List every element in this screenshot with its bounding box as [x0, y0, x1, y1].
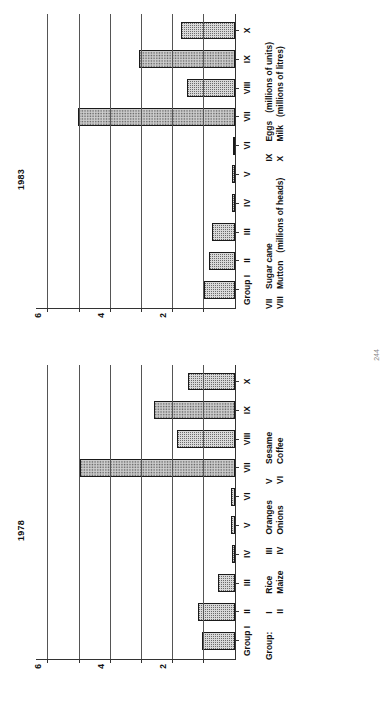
x-axis-label: X [242, 16, 252, 45]
gridline [141, 365, 142, 659]
x-axis-tick [235, 583, 239, 584]
legend-numeral: II [275, 598, 285, 614]
bar [187, 79, 235, 97]
bar [188, 373, 235, 391]
legend-label: Sesame [264, 432, 274, 464]
bar-slot [36, 275, 235, 304]
gridline [79, 365, 80, 659]
x-axis-tick [235, 289, 239, 290]
y-axis-tick [172, 659, 173, 663]
legend-label: Milk [275, 125, 285, 142]
page-number: 244 [373, 349, 380, 361]
legend-item: VIII Mutton (millions of heads) [275, 178, 285, 309]
y-axis-tick [141, 308, 142, 312]
x-axis-tick [235, 554, 239, 555]
bar [202, 632, 235, 650]
legend-unit: (millions of units) [264, 42, 274, 113]
x-axis-label: IX [242, 396, 252, 425]
legend-label: Rice [264, 576, 274, 594]
x-axis-label: Group I [242, 626, 252, 656]
legend-item: IV Onions [275, 500, 285, 555]
y-axis-tick-label: 2 [158, 664, 168, 669]
bar [80, 459, 235, 477]
x-axis-label: II [242, 597, 252, 626]
bar [209, 252, 235, 270]
bar-slot [36, 367, 235, 396]
x-axis-label: VII [242, 453, 252, 482]
legend-numeral: I [264, 598, 274, 614]
bar-slot [36, 45, 235, 74]
legend-label: Coffee [275, 438, 285, 464]
plot-area-1983: 642 [36, 14, 236, 309]
legend-column: IX Eggs (millions of units) X Milk (mill… [264, 42, 285, 162]
legend-label: Mutton [275, 261, 285, 289]
y-axis-tick [79, 308, 80, 312]
bar [78, 108, 235, 126]
x-axis-label: IV [242, 189, 252, 218]
x-axis-tick [235, 439, 239, 440]
bar-slot [36, 189, 235, 218]
bar [218, 574, 235, 592]
x-axis-tick [235, 496, 239, 497]
legend-numeral: V [264, 468, 274, 484]
x-axis-tick [235, 381, 239, 382]
legend-1983: VII Sugar cane VIII Mutton (millions of … [264, 10, 285, 309]
x-axis-tick [235, 145, 239, 146]
legend-item: VI Coffee [275, 432, 285, 484]
legend-numeral: VII [264, 293, 274, 309]
bar [154, 401, 235, 419]
y-axis-tick-label: 4 [96, 664, 106, 669]
y-axis-tick [110, 659, 111, 663]
gridline [203, 365, 204, 659]
bar-slot [36, 131, 235, 160]
legend-label: Maize [275, 571, 285, 594]
chart-panel-1978: 1978 642 Group IIIIIIIVVVIVIIVIIIIXX Gro… [6, 355, 378, 706]
legend-item: V Sesame [264, 432, 274, 484]
gridline [110, 14, 111, 308]
bar [139, 50, 235, 68]
x-axis-label: VI [242, 482, 252, 511]
bar-series-1983 [36, 14, 235, 308]
x-axis-tick [235, 232, 239, 233]
legend-column: VII Sugar cane VIII Mutton (millions of … [264, 178, 285, 309]
y-axis-tick-label: 4 [96, 313, 106, 318]
gridline [79, 14, 80, 308]
legend-item: III Oranges [264, 500, 274, 555]
x-axis-tick [235, 525, 239, 526]
x-axis-label: VIII [242, 425, 252, 454]
x-axis-label: III [242, 568, 252, 597]
y-axis-tick [47, 659, 48, 663]
x-axis-label: X [242, 367, 252, 396]
bar-slot [36, 102, 235, 131]
x-axis-label: V [242, 511, 252, 540]
legend-numeral: IV [275, 539, 285, 555]
y-axis-tick-label: 6 [33, 664, 43, 669]
bar-slot [36, 16, 235, 45]
legend-column: V Sesame VI Coffee [264, 432, 285, 484]
x-axis-tick [235, 611, 239, 612]
y-axis-tick [203, 659, 204, 663]
x-axis-tick [235, 30, 239, 31]
x-axis-label: IV [242, 540, 252, 569]
x-axis-tick [235, 203, 239, 204]
y-axis-tick [110, 308, 111, 312]
legend-1978: Group: I Rice II Maize III Oranges [264, 361, 285, 660]
legend-numeral: VIII [275, 293, 285, 309]
bar-slot [36, 453, 235, 482]
legend-label: Oranges [264, 500, 274, 535]
x-axis-tick [235, 640, 239, 641]
legend-unit: (millions of litres) [275, 46, 285, 117]
legend-numeral: VI [275, 468, 285, 484]
y-axis-tick [172, 308, 173, 312]
gridline [141, 14, 142, 308]
y-axis-tick-label: 6 [33, 313, 43, 318]
gridline [203, 14, 204, 308]
legend-item: IX Eggs (millions of units) [264, 42, 274, 162]
bar-slot [36, 569, 235, 598]
x-axis-tick [235, 59, 239, 60]
gridline [110, 365, 111, 659]
legend-item: VII Sugar cane [264, 178, 274, 309]
x-axis-label: IX [242, 45, 252, 74]
legend-numeral: III [264, 539, 274, 555]
x-axis-tick [235, 174, 239, 175]
